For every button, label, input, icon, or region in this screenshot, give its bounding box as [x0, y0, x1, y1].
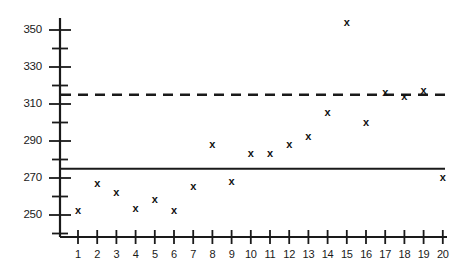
x-axis-tick-label: 3: [106, 248, 126, 260]
x-axis-tick-label: 9: [222, 248, 242, 260]
x-axis-tick-label: 12: [279, 248, 299, 260]
x-axis-tick-label: 11: [260, 248, 280, 260]
data-point-marker: x: [226, 176, 238, 187]
data-point-marker: x: [110, 187, 122, 198]
data-point-marker: x: [130, 203, 142, 214]
x-axis-tick-label: 18: [394, 248, 414, 260]
x-axis-tick-label: 17: [375, 248, 395, 260]
scatter-chart: 250270290310330350 123456789101112131415…: [0, 0, 455, 271]
data-point-marker: x: [418, 85, 430, 96]
x-axis-tick-label: 19: [414, 248, 434, 260]
data-point-marker: x: [398, 91, 410, 102]
x-axis-tick-label: 4: [126, 248, 146, 260]
data-point-marker: x: [341, 17, 353, 28]
data-point-marker: x: [72, 205, 84, 216]
x-axis-tick-label: 6: [164, 248, 184, 260]
x-axis-tick-label: 1: [68, 248, 88, 260]
x-axis-tick-label: 14: [318, 248, 338, 260]
data-point-marker: x: [245, 148, 257, 159]
data-point-marker: x: [206, 139, 218, 150]
x-axis-tick-label: 15: [337, 248, 357, 260]
data-point-marker: x: [302, 131, 314, 142]
x-axis-tick-label: 20: [433, 248, 453, 260]
data-point-marker: x: [91, 178, 103, 189]
y-axis-tick-label: 330: [8, 60, 42, 72]
data-point-marker: x: [149, 194, 161, 205]
x-axis-tick-label: 5: [145, 248, 165, 260]
data-point-marker: x: [187, 181, 199, 192]
x-axis-tick-label: 10: [241, 248, 261, 260]
data-point-marker: x: [283, 139, 295, 150]
x-axis-tick-label: 13: [298, 248, 318, 260]
data-point-marker: x: [264, 148, 276, 159]
data-point-marker: x: [360, 117, 372, 128]
y-axis-tick-label: 290: [8, 134, 42, 146]
x-axis-tick-label: 8: [202, 248, 222, 260]
data-point-marker: x: [322, 107, 334, 118]
chart-canvas: [0, 0, 455, 271]
y-axis-tick-label: 350: [8, 23, 42, 35]
axes-group: [49, 18, 447, 244]
y-axis-tick-label: 310: [8, 97, 42, 109]
data-point-marker: x: [437, 172, 449, 183]
x-axis-tick-label: 2: [87, 248, 107, 260]
data-point-marker: x: [379, 87, 391, 98]
x-axis-tick-label: 7: [183, 248, 203, 260]
y-axis-tick-label: 250: [8, 208, 42, 220]
data-point-marker: x: [168, 205, 180, 216]
x-axis-tick-label: 16: [356, 248, 376, 260]
y-axis-tick-label: 270: [8, 171, 42, 183]
